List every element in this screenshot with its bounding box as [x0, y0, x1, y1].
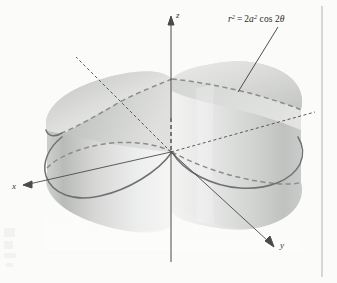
x-axis-label: x	[11, 181, 16, 191]
equation-cos: cos	[260, 14, 273, 24]
figure-container: z y x r2=2a2cos2θ	[0, 0, 337, 283]
equation-theta: θ	[280, 14, 285, 24]
left-lobe-surface	[44, 71, 172, 250]
surface-plot-svg: z y x r2=2a2cos2θ	[0, 0, 337, 283]
right-lobe-highlight	[196, 85, 214, 224]
equation-equals: =	[237, 14, 242, 24]
z-axis-label: z	[175, 10, 180, 20]
y-axis-label: y	[279, 240, 284, 250]
